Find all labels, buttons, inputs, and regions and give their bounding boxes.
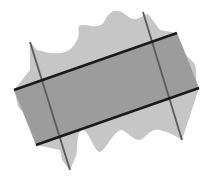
diagram-svg [0,0,212,186]
diagram-canvas [0,0,212,186]
